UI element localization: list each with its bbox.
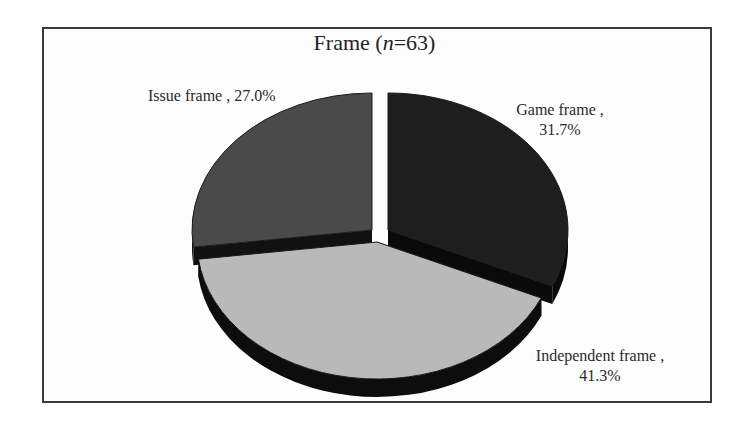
label-independent-line1: Independent frame , <box>520 346 680 366</box>
slice-issue-frame <box>192 93 372 247</box>
label-game-frame: Game frame , 31.7% <box>500 100 620 140</box>
label-game-line1: Game frame , <box>500 100 620 120</box>
label-issue-text: Issue frame , 27.0% <box>148 87 276 104</box>
label-independent-line2: 41.3% <box>520 366 680 386</box>
label-game-line2: 31.7% <box>500 120 620 140</box>
label-issue-frame: Issue frame , 27.0% <box>148 86 276 106</box>
label-independent-frame: Independent frame , 41.3% <box>520 346 680 386</box>
